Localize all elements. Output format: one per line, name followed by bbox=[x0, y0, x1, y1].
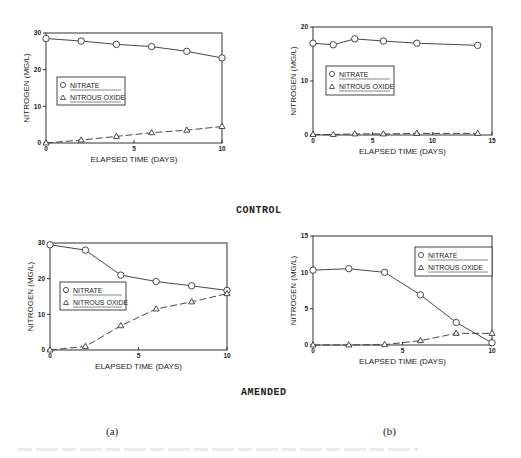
triangle-marker bbox=[219, 123, 225, 128]
x-axis-label: ELAPSED TIME (DAYS) bbox=[91, 155, 178, 164]
y-tick-label: 20 bbox=[34, 66, 42, 73]
x-tick-label: 0 bbox=[311, 347, 315, 354]
circle-marker bbox=[381, 269, 387, 275]
circle-marker bbox=[47, 242, 53, 248]
circle-marker bbox=[417, 292, 423, 298]
circle-marker bbox=[184, 48, 190, 54]
legend-entry: NITRATE bbox=[428, 252, 458, 259]
panel-label-a: (a) bbox=[106, 425, 118, 437]
triangle-marker bbox=[310, 131, 316, 136]
circle-marker bbox=[414, 40, 420, 46]
triangle-marker bbox=[82, 343, 88, 348]
series-line bbox=[46, 39, 222, 58]
triangle-marker bbox=[414, 130, 420, 135]
y-tick-label: 30 bbox=[38, 239, 46, 246]
triangle-marker bbox=[453, 330, 459, 335]
triangle-marker bbox=[380, 131, 386, 136]
x-tick-label: 0 bbox=[48, 352, 52, 359]
triangle-marker bbox=[346, 342, 352, 347]
legend-circle-icon bbox=[60, 82, 65, 87]
circle-marker bbox=[310, 40, 316, 46]
x-tick-label: 5 bbox=[401, 347, 405, 354]
legend-circle-icon bbox=[63, 287, 68, 292]
triangle-marker bbox=[153, 306, 159, 311]
y-tick-label: 20 bbox=[38, 275, 46, 282]
chart-control-b: 01020051015ELAPSED TIME (DAYS)NITROGEN (… bbox=[289, 23, 496, 156]
x-axis-label: ELAPSED TIME (DAYS) bbox=[95, 362, 182, 371]
x-axis-label: ELAPSED TIME (DAYS) bbox=[359, 147, 446, 156]
y-tick-label: 10 bbox=[301, 77, 309, 84]
x-tick-label: 5 bbox=[132, 145, 136, 152]
triangle-marker bbox=[489, 330, 495, 335]
circle-marker bbox=[78, 38, 84, 44]
triangle-marker bbox=[149, 130, 155, 135]
amended-group-label: AMENDED bbox=[241, 387, 287, 398]
legend: NITRATENITROUS OXIDE bbox=[326, 66, 395, 95]
circle-marker bbox=[82, 247, 88, 253]
legend-entry: NITRATE bbox=[73, 287, 103, 294]
y-tick-label: 0 bbox=[304, 131, 308, 138]
series-line bbox=[313, 39, 478, 45]
circle-marker bbox=[113, 41, 119, 47]
x-tick-label: 5 bbox=[371, 137, 375, 144]
circle-marker bbox=[188, 283, 194, 289]
circle-marker bbox=[43, 35, 49, 41]
circle-marker bbox=[153, 278, 159, 284]
circle-marker bbox=[310, 267, 316, 273]
legend-entry: NITRATE bbox=[339, 71, 369, 78]
y-axis-label: NITROGEN (MG/L) bbox=[22, 53, 31, 123]
y-tick-label: 10 bbox=[34, 103, 42, 110]
x-tick-label: 5 bbox=[137, 352, 141, 359]
circle-marker bbox=[330, 42, 336, 48]
chart-amended-a: 01020300510ELAPSED TIME (DAYS)NITROGEN (… bbox=[26, 239, 231, 371]
circle-marker bbox=[346, 266, 352, 272]
triangle-marker bbox=[475, 130, 481, 135]
legend-entry: NITROUS OXIDE bbox=[428, 264, 484, 271]
y-tick-label: 0 bbox=[41, 346, 45, 353]
legend: NITRATENITROUS OXIDE bbox=[415, 247, 492, 276]
x-tick-label: 10 bbox=[223, 352, 231, 359]
circle-marker bbox=[148, 43, 154, 49]
legend: NITRATENITROUS OXIDE bbox=[60, 282, 129, 310]
chart-amended-b: 0510150510ELAPSED TIME (DAYS)NITROGEN (M… bbox=[289, 232, 496, 366]
y-tick-label: 0 bbox=[37, 139, 41, 146]
y-axis-label: NITROGEN (MG/L) bbox=[289, 46, 298, 116]
x-tick-label: 10 bbox=[488, 347, 496, 354]
series-line bbox=[313, 133, 478, 134]
y-tick-label: 0 bbox=[304, 341, 308, 348]
legend-entry: NITROUS OXIDE bbox=[339, 83, 395, 90]
legend-circle-icon bbox=[329, 71, 334, 76]
x-tick-label: 10 bbox=[218, 145, 226, 152]
control-group-label: CONTROL bbox=[236, 205, 282, 216]
circle-marker bbox=[474, 42, 480, 48]
y-tick-label: 10 bbox=[38, 311, 46, 318]
y-axis-label: NITROGEN (MG/L) bbox=[289, 256, 298, 326]
circle-marker bbox=[219, 55, 225, 61]
x-tick-label: 0 bbox=[44, 145, 48, 152]
legend-entry: NITRATE bbox=[70, 82, 100, 89]
x-axis-label: ELAPSED TIME (DAYS) bbox=[359, 357, 446, 366]
triangle-marker bbox=[417, 337, 423, 342]
y-tick-label: 15 bbox=[301, 232, 309, 239]
triangle-marker bbox=[78, 137, 84, 142]
faded-caption-line bbox=[18, 448, 418, 451]
triangle-marker bbox=[310, 342, 316, 347]
panel-label-b: (b) bbox=[383, 425, 396, 437]
y-tick-label: 20 bbox=[301, 23, 309, 30]
y-tick-label: 10 bbox=[301, 269, 309, 276]
series-line bbox=[313, 269, 492, 343]
legend-entry: NITROUS OXIDE bbox=[70, 94, 126, 101]
circle-marker bbox=[489, 340, 495, 346]
y-tick-label: 30 bbox=[34, 29, 42, 36]
triangle-marker bbox=[330, 131, 336, 136]
legend-circle-icon bbox=[418, 252, 423, 257]
triangle-marker bbox=[118, 323, 124, 328]
legend: NITRATENITROUS OXIDE bbox=[57, 77, 126, 105]
x-tick-label: 0 bbox=[311, 137, 315, 144]
circle-marker bbox=[453, 319, 459, 325]
x-tick-label: 15 bbox=[488, 137, 496, 144]
circle-marker bbox=[380, 38, 386, 44]
x-tick-label: 10 bbox=[429, 137, 437, 144]
y-tick-label: 5 bbox=[304, 305, 308, 312]
circle-marker bbox=[118, 272, 124, 278]
